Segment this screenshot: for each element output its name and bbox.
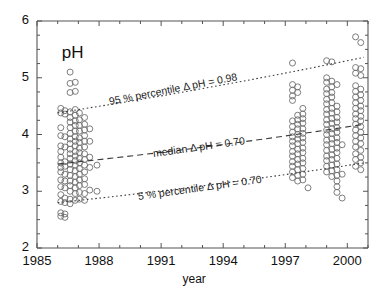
y-axis-tick-label: 2	[0, 239, 29, 254]
data-point	[300, 105, 306, 111]
data-point	[94, 188, 100, 194]
data-point	[58, 133, 64, 139]
x-axis-ticks	[37, 21, 368, 248]
data-point	[87, 164, 93, 170]
data-point	[334, 178, 340, 184]
data-point	[358, 86, 364, 92]
data-point	[305, 185, 311, 191]
data-point	[82, 133, 88, 139]
data-point	[358, 147, 364, 153]
data-point	[72, 107, 78, 113]
data-point	[353, 34, 359, 40]
data-point	[358, 118, 364, 124]
page-title: pH	[62, 43, 84, 63]
data-point	[58, 177, 64, 183]
data-point	[334, 189, 340, 195]
y-axis-tick-label: 4	[0, 126, 29, 141]
data-point	[295, 90, 301, 96]
data-point	[339, 195, 345, 201]
data-point	[334, 103, 340, 109]
axis-frame	[37, 21, 368, 248]
x-axis-tick-label: 1988	[69, 253, 129, 268]
data-point	[58, 198, 64, 204]
data-point	[58, 143, 64, 149]
data-point	[358, 167, 364, 173]
data-point	[58, 192, 64, 198]
x-axis-title: year	[183, 272, 206, 286]
data-point	[289, 97, 295, 103]
data-point	[334, 82, 340, 88]
x-axis-tick-label: 2000	[317, 253, 377, 268]
data-point	[295, 84, 301, 90]
data-point	[72, 191, 78, 197]
data-point	[87, 154, 93, 160]
data-point	[358, 72, 364, 78]
ph-trend-figure: pH year 95 % percentile Δ pH = 0.98 medi…	[0, 0, 384, 295]
data-point	[289, 60, 295, 66]
y-axis-ticks	[37, 21, 368, 248]
y-axis-tick-label: 3	[0, 182, 29, 197]
data-points	[58, 34, 364, 220]
data-point	[334, 184, 340, 190]
data-point	[94, 162, 100, 168]
data-point	[358, 135, 364, 141]
data-point	[58, 125, 64, 131]
data-point	[334, 150, 340, 156]
data-point	[358, 141, 364, 147]
data-point	[67, 69, 73, 75]
data-point	[82, 114, 88, 120]
x-axis-tick-label: 1994	[193, 253, 253, 268]
data-point	[58, 184, 64, 190]
data-point	[329, 94, 335, 100]
x-axis-tick-label: 1997	[255, 253, 315, 268]
data-point	[358, 97, 364, 103]
data-point	[358, 129, 364, 135]
data-point	[358, 108, 364, 114]
data-point	[358, 154, 364, 160]
data-point	[87, 187, 93, 193]
y-axis-tick-label: 5	[0, 69, 29, 84]
y-axis-tick-label: 6	[0, 12, 29, 27]
data-point	[339, 142, 345, 148]
x-axis-tick-label: 1985	[7, 253, 67, 268]
data-point	[358, 92, 364, 98]
data-point	[358, 40, 364, 46]
data-point	[82, 169, 88, 175]
x-axis-tick-label: 1991	[131, 253, 191, 268]
